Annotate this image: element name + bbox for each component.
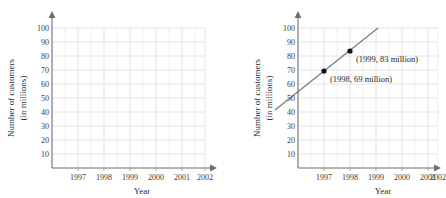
chart-right-canvas: (1999, 83 million) (1998, 69 million) <box>223 0 446 198</box>
y-tick-label: 40 <box>287 108 295 117</box>
y-tick-label: 60 <box>41 80 49 89</box>
y-tick-label: 20 <box>287 136 295 145</box>
y-tick-label: 50 <box>287 94 295 103</box>
y-tick-labels-left: 100 90 80 70 60 50 40 30 20 10 <box>37 24 49 159</box>
y-tick-label: 90 <box>287 38 295 47</box>
y-tick-label: 30 <box>287 122 295 131</box>
x-tick-label: 1999 <box>122 173 138 182</box>
y-tick-label: 70 <box>41 66 49 75</box>
x-tick-label: 2002 <box>430 173 446 182</box>
annotation-1999: (1999, 83 million) <box>356 54 418 64</box>
y-axis-left <box>49 11 56 168</box>
chart-left-canvas: 100 90 80 70 60 50 40 30 20 10 1997 1998… <box>0 0 223 198</box>
x-axis-left <box>52 165 217 172</box>
x-axis-title: Year <box>375 186 392 196</box>
x-tick-label: 1999 <box>368 173 384 182</box>
y-tick-label: 80 <box>287 52 295 61</box>
y-tick-label: 90 <box>41 38 49 47</box>
y-tick-label: 50 <box>41 94 49 103</box>
y-axis-title-line1: Number of customers <box>252 59 262 137</box>
y-tick-label: 100 <box>283 24 295 33</box>
y-tick-label: 40 <box>41 108 49 117</box>
y-tick-label: 10 <box>41 150 49 159</box>
x-tick-label: 1997 <box>70 173 86 182</box>
x-tick-label: 1997 <box>316 173 332 182</box>
chart-right-with-trend-line: (1999, 83 million) (1998, 69 million) <box>223 0 446 198</box>
x-tick-labels-left: 1997 1998 1999 2000 2001 2002 <box>70 173 213 182</box>
x-tick-label: 1998 <box>342 173 358 182</box>
annotation-1998: (1998, 69 million) <box>330 74 392 84</box>
y-axis-title-line2: (in millions) <box>18 76 28 121</box>
x-tick-label: 2001 <box>174 173 190 182</box>
y-tick-label: 100 <box>37 24 49 33</box>
x-axis-title: Year <box>134 186 151 196</box>
y-tick-label: 60 <box>287 80 295 89</box>
y-tick-label: 10 <box>287 150 295 159</box>
y-axis-title-line1: Number of customers <box>6 59 16 137</box>
y-tick-label: 80 <box>41 52 49 61</box>
x-tick-label: 2000 <box>148 173 164 182</box>
grid-horizontal-right <box>298 28 438 154</box>
y-tick-label: 20 <box>41 136 49 145</box>
x-tick-label: 2000 <box>394 173 410 182</box>
x-tick-label: 1998 <box>96 173 112 182</box>
data-point-1999 <box>347 48 352 53</box>
x-tick-label: 2002 <box>197 173 213 182</box>
x-axis-right <box>298 165 441 172</box>
y-tick-label: 70 <box>287 66 295 75</box>
y-tick-label: 30 <box>41 122 49 131</box>
y-axis-title-line2: (in millions) <box>264 76 274 121</box>
chart-left-blank-grid: 100 90 80 70 60 50 40 30 20 10 1997 1998… <box>0 0 223 198</box>
y-tick-labels-right: 100 90 80 70 60 50 40 30 20 10 <box>283 24 295 159</box>
data-point-1998 <box>321 68 326 73</box>
x-tick-labels-right: 1997 1998 1999 2000 2001 2002 <box>316 173 446 182</box>
